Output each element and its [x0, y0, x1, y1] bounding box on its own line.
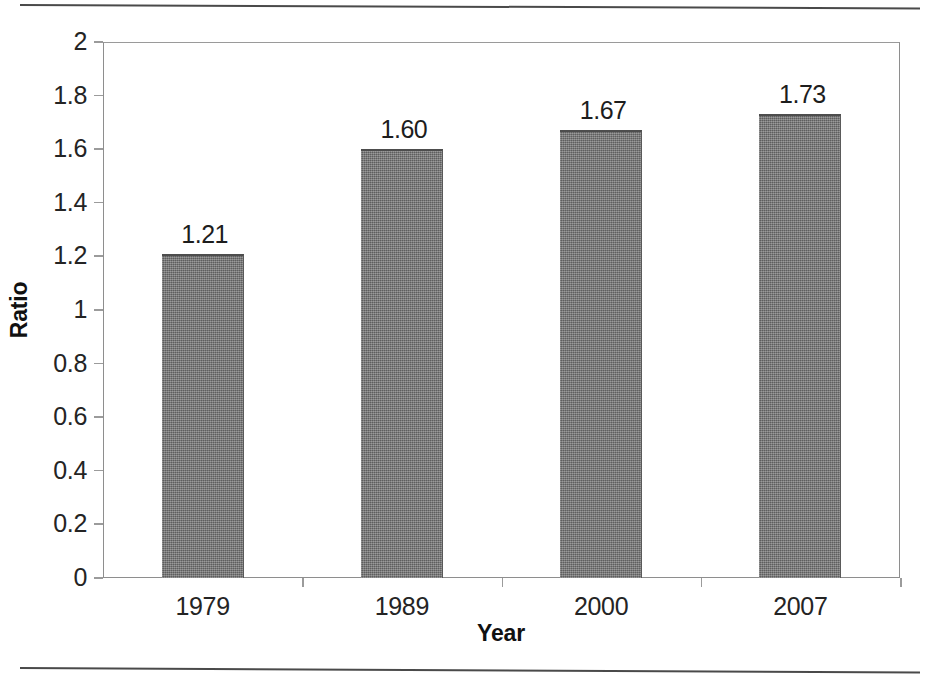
bar [361, 149, 443, 578]
bar [560, 130, 642, 578]
x-axis-label: 2000 [574, 592, 628, 620]
y-tick-label: 0.8 [53, 350, 87, 377]
y-tick-label: 0.6 [53, 403, 87, 430]
x-axis-label: 1989 [375, 592, 429, 620]
y-tick-label: 1.8 [53, 82, 87, 109]
bar-chart-figure: 21.81.61.41.210.80.60.40.20 Ratio 197919… [0, 0, 935, 685]
y-tick-mark [94, 95, 103, 97]
x-axis-tick [701, 578, 703, 587]
bar-value-label: 1.67 [580, 96, 627, 124]
y-tick-mark [94, 255, 103, 257]
x-axis-label: 2007 [773, 592, 827, 620]
bar [759, 114, 841, 578]
y-tick-mark [94, 470, 103, 472]
y-tick-mark [94, 363, 103, 365]
bar-value-label: 1.73 [779, 80, 826, 108]
y-axis-title: Ratio [6, 282, 33, 339]
bar [162, 254, 244, 578]
y-tick-mark [94, 148, 103, 150]
y-tick-mark [94, 577, 103, 579]
x-axis-tick [900, 578, 902, 587]
y-tick-label: 0.4 [53, 457, 87, 484]
x-axis-tick [502, 578, 504, 587]
y-tick-label: 1.6 [53, 135, 87, 162]
y-tick-label: 0 [73, 564, 87, 591]
x-axis-tick [302, 578, 304, 587]
bar-value-label: 1.21 [181, 220, 228, 248]
y-axis: 21.81.61.41.210.80.60.40.20 [0, 0, 103, 685]
y-tick-mark [94, 523, 103, 525]
y-tick-label: 1 [73, 296, 87, 323]
y-tick-label: 0.2 [53, 510, 87, 537]
y-tick-mark [94, 202, 103, 204]
y-tick-mark [94, 41, 103, 43]
y-tick-label: 2 [73, 28, 87, 55]
y-tick-label: 1.4 [53, 189, 87, 216]
y-tick-mark [94, 309, 103, 311]
bar-value-label: 1.60 [381, 115, 428, 143]
x-axis-label: 1979 [175, 592, 229, 620]
y-tick-label: 1.2 [53, 242, 87, 269]
y-tick-mark [94, 416, 103, 418]
x-axis-title: Year [477, 620, 525, 647]
